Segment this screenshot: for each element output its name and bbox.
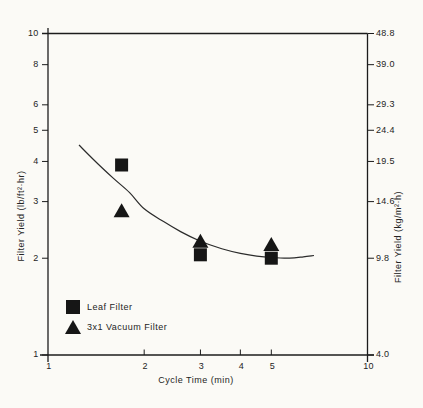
triangle-marker-icon [65,320,81,334]
y-axis-label-right: Filter Yield (kg/m²·h) [393,191,403,283]
x-tick-label: 3 [199,361,204,371]
legend-item-leaf-filter: Leaf Filter [64,299,167,314]
legend-marker-box [64,299,81,314]
y-tick-label-left: 3 [33,196,38,206]
y-tick-label-left: 6 [33,99,38,109]
x-tick-label: 5 [270,361,275,371]
y-tick-label-left: 4 [33,156,38,166]
data-point-triangle [192,234,208,248]
plot-canvas: 12345101234568104.09.814.619.524.429.339… [0,0,423,408]
data-point-square [194,248,207,261]
x-tick-label: 2 [143,361,148,371]
y-tick-label-right: 19.5 [376,156,395,166]
y-tick-label-left: 1 [33,349,38,359]
x-tick-label: 1 [46,361,51,371]
square-marker-icon [66,300,80,314]
filter-yield-vs-cycle-time-chart: 12345101234568104.09.814.619.524.429.339… [0,0,423,408]
x-tick-label: 10 [363,361,374,371]
y-tick-label-right: 48.8 [376,28,395,38]
y-axis-label-left: Filter Yield (lb/ft²·hr) [16,170,26,261]
legend-label-vacuum-filter: 3x1 Vacuum Filter [87,322,167,332]
data-point-triangle [263,237,279,251]
data-point-square [115,159,128,172]
y-tick-label-left: 5 [33,125,38,135]
legend-marker-box [64,319,81,334]
y-tick-label-right: 29.3 [376,99,395,109]
y-tick-label-right: 9.8 [376,253,389,263]
legend-item-vacuum-filter: 3x1 Vacuum Filter [64,319,167,334]
y-tick-label-left: 2 [33,253,38,263]
y-tick-label-left: 8 [33,59,38,69]
y-tick-label-right: 14.6 [376,196,395,206]
x-tick-label: 4 [239,361,244,371]
legend-label-leaf-filter: Leaf Filter [87,302,133,312]
y-tick-label-right: 39.0 [376,59,395,69]
y-tick-label-left: 10 [28,28,39,38]
scanned-chart-page: 12345101234568104.09.814.619.524.429.339… [0,0,423,408]
legend: Leaf Filter 3x1 Vacuum Filter [64,299,167,334]
y-tick-label-right: 4.0 [376,349,389,359]
y-tick-label-right: 24.4 [376,125,395,135]
x-axis-label: Cycle Time (min) [48,375,344,385]
data-point-triangle [114,203,130,217]
data-point-square [265,252,278,265]
